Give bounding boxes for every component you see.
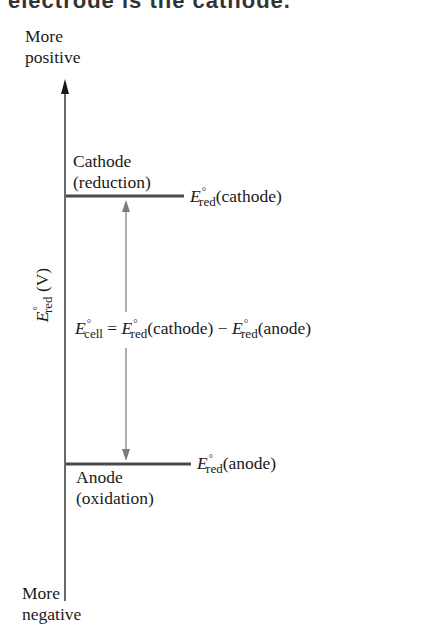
- axis-arrowhead-icon: [61, 79, 69, 94]
- minus-sign: −: [213, 318, 232, 338]
- axis-top-label-line1: More: [25, 26, 80, 47]
- subscript: red: [199, 194, 216, 209]
- y-axis-label: E°red (V): [32, 268, 53, 322]
- anode-paren: (anode): [258, 318, 311, 338]
- cathode-label: Cathode (reduction): [73, 151, 151, 193]
- cathode-paren: (cathode): [216, 186, 282, 206]
- subscript: red: [241, 326, 258, 341]
- cathode-label-line1: Cathode: [73, 151, 151, 172]
- arrow-down-icon: [122, 449, 130, 461]
- anode-paren: (anode): [223, 453, 276, 473]
- cathode-label-line2: (reduction): [73, 172, 151, 193]
- cathode-potential-label: E°red(cathode): [190, 186, 282, 207]
- subscript: red: [131, 326, 148, 341]
- anode-potential-label: E°red(anode): [197, 453, 276, 474]
- arrow-up-icon: [122, 200, 130, 212]
- diagram-graphics: [0, 0, 443, 632]
- axis-top-label: More positive: [25, 26, 80, 68]
- subscript: red: [206, 461, 223, 476]
- cell-potential-equation: E°cell = E°red(cathode) − E°red(anode): [75, 318, 311, 339]
- unit: (V): [32, 268, 52, 297]
- anode-label-line2: (oxidation): [76, 488, 154, 509]
- equals-sign: =: [103, 318, 122, 338]
- anode-label: Anode (oxidation): [76, 467, 154, 509]
- axis-bottom-label-line1: More: [22, 583, 81, 604]
- anode-label-line1: Anode: [76, 467, 154, 488]
- axis-bottom-label: More negative: [22, 583, 81, 625]
- subscript: cell: [84, 326, 103, 341]
- subscript: red: [40, 296, 55, 313]
- axis-top-label-line2: positive: [25, 47, 80, 68]
- axis-bottom-label-line2: negative: [22, 604, 81, 625]
- cathode-paren: (cathode): [147, 318, 213, 338]
